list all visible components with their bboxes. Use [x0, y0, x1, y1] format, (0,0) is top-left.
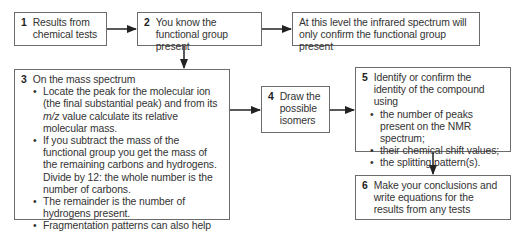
- step-text: Make your conclusions and write equation…: [374, 180, 504, 217]
- bullet-item: The remainder is the number of hydrogens…: [43, 196, 223, 220]
- nmr-bullets: the number of peaks present on the NMR s…: [362, 109, 504, 170]
- box-1-chemical-tests: 1 Results from chemical tests: [14, 12, 107, 46]
- step-number: 1: [21, 17, 27, 41]
- box-3-mass-spectrum: 3 On the mass spectrum Locate the peak f…: [14, 69, 230, 220]
- step-number: 5: [362, 72, 368, 109]
- step-text: Results from chemical tests: [33, 17, 100, 41]
- box-4-isomers: 4 Draw the possible isomers: [261, 86, 330, 133]
- step-number: 4: [268, 91, 274, 128]
- bullet-item: their chemical shift values;: [380, 145, 504, 157]
- bullet-item: the splitting pattern(s).: [380, 157, 504, 169]
- step-number: 3: [21, 74, 27, 86]
- box-infrared-note: At this level the infrared spectrum will…: [292, 12, 480, 46]
- step-number: 6: [362, 180, 368, 217]
- box-5-nmr: 5 Identify or confirm the identity of th…: [355, 67, 511, 152]
- bullet-item: If you subtract the mass of the function…: [43, 135, 223, 196]
- bullet-item: Locate the peak for the molecular ion (t…: [43, 86, 223, 135]
- bullet-item: Fragmentation patterns can also help ide…: [43, 220, 223, 234]
- step-number: 2: [144, 17, 150, 54]
- step-text: You know the functional group present: [156, 17, 255, 54]
- step-heading: Identify or confirm the identity of the …: [374, 72, 504, 109]
- step-heading: On the mass spectrum: [33, 74, 136, 86]
- step-text: Draw the possible isomers: [280, 91, 323, 128]
- bullet-item: the number of peaks present on the NMR s…: [380, 109, 504, 146]
- mass-spectrum-bullets: Locate the peak for the molecular ion (t…: [21, 86, 223, 234]
- box-6-conclusions: 6 Make your conclusions and write equati…: [355, 175, 511, 220]
- box-2-functional-group: 2 You know the functional group present: [137, 12, 262, 46]
